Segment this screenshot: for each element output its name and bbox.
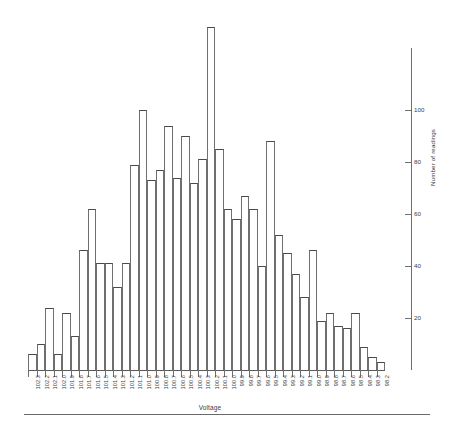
x-axis-tick-label: 98.4 — [366, 375, 374, 403]
histogram-bar — [147, 180, 156, 370]
x-axis-title: Voltage — [0, 404, 420, 411]
y-axis-tick-label: 100 — [414, 107, 424, 113]
x-axis-tick-label: 101.1 — [136, 375, 144, 403]
histogram-bar — [181, 136, 190, 370]
x-axis-tick-label: 102.2 — [43, 375, 51, 403]
x-axis-tick-label: 99.5 — [272, 375, 280, 403]
x-axis-tick-label: 101.5 — [102, 375, 110, 403]
histogram-bar — [215, 149, 224, 370]
x-axis-tick-label: 99.1 — [306, 375, 314, 403]
histogram-bar — [326, 313, 335, 370]
histogram-bar — [113, 287, 122, 370]
x-axis-tick-label: 100.1 — [221, 375, 229, 403]
x-axis-tick-label: 99.2 — [298, 375, 306, 403]
histogram-bar — [241, 196, 250, 370]
x-axis-tick-label: 98.3 — [374, 375, 382, 403]
y-axis-ticks: 20406080100 — [405, 14, 445, 374]
histogram-bar — [198, 159, 207, 370]
y-axis-tick — [405, 318, 411, 319]
x-axis-tick-label: 100.5 — [187, 375, 195, 403]
x-axis-tick-label: 100.0 — [230, 375, 238, 403]
histogram-bar — [164, 126, 173, 370]
x-axis-tick-label: 99.0 — [315, 375, 323, 403]
histogram-bar — [300, 297, 309, 370]
x-axis-tick-label: 100.4 — [196, 375, 204, 403]
histogram-bar — [54, 354, 63, 370]
y-axis-tick-label: 80 — [414, 159, 421, 165]
histogram-bar — [258, 266, 267, 370]
x-axis-tick-label: 98.6 — [349, 375, 357, 403]
histogram-bar — [37, 344, 46, 370]
histogram-bar — [232, 219, 241, 370]
histogram-bar — [207, 27, 216, 370]
x-axis-tick-label: 101.6 — [94, 375, 102, 403]
histogram-bar — [130, 165, 139, 370]
histogram-bar — [334, 326, 343, 370]
histogram-bar — [96, 263, 105, 370]
y-axis-tick-label: 60 — [414, 211, 421, 217]
y-axis-title: Number of readings — [429, 129, 436, 186]
y-axis-tick — [405, 110, 411, 111]
histogram-bar — [79, 250, 88, 370]
histogram-bar — [224, 209, 233, 370]
x-axis-tick-label: 100.7 — [170, 375, 178, 403]
histogram-bar — [266, 141, 275, 370]
footer-divider — [24, 414, 430, 415]
x-axis-tick-label: 99.8 — [247, 375, 255, 403]
x-axis-tick-label: 101.9 — [68, 375, 76, 403]
x-axis-tick-label: 99.4 — [281, 375, 289, 403]
x-axis-tick-label: 101.3 — [119, 375, 127, 403]
histogram-bar — [190, 183, 199, 370]
x-axis-tick-label: 98.7 — [340, 375, 348, 403]
histogram-bar — [156, 170, 165, 370]
histogram-bar — [343, 328, 352, 370]
x-axis-tick-label: 100.6 — [179, 375, 187, 403]
x-axis-tick-label: 102.3 — [34, 375, 42, 403]
x-axis-tick-label: 99.9 — [238, 375, 246, 403]
x-axis-tick-label: 102.0 — [60, 375, 68, 403]
x-axis-tick-label: 98.8 — [332, 375, 340, 403]
x-axis-tick-label: 99.3 — [289, 375, 297, 403]
x-axis-tick-label: 98.2 — [383, 375, 391, 403]
histogram-bar — [139, 110, 148, 370]
x-axis-tick-label: 101.7 — [85, 375, 93, 403]
histogram-bar — [292, 274, 301, 370]
x-axis-tick-label: 102.1 — [51, 375, 59, 403]
x-axis-tick-label: 101.4 — [111, 375, 119, 403]
x-axis-tick-label: 100.9 — [153, 375, 161, 403]
histogram-bar — [71, 336, 80, 370]
x-axis-tick-label: 100.3 — [204, 375, 212, 403]
y-axis-tick-label: 20 — [414, 315, 421, 321]
histogram-bar — [249, 209, 258, 370]
y-axis-tick-label: 40 — [414, 263, 421, 269]
x-axis-tick-label: 100.2 — [213, 375, 221, 403]
x-axis-tick-label: 101.0 — [145, 375, 153, 403]
histogram-bar — [105, 263, 114, 370]
plot-area — [28, 14, 385, 370]
histogram-bar — [88, 209, 97, 370]
histogram-bar — [62, 313, 71, 370]
histogram-bar — [368, 357, 377, 370]
histogram-bar — [275, 235, 284, 370]
histogram-bar — [122, 263, 131, 370]
x-axis-tick-label: 101.2 — [128, 375, 136, 403]
histogram-bar — [317, 321, 326, 370]
histogram-bar — [360, 347, 369, 370]
y-axis-tick — [405, 162, 411, 163]
histogram-bar — [173, 178, 182, 370]
x-axis-tick-label: 100.8 — [162, 375, 170, 403]
x-axis-tick-label: 99.6 — [264, 375, 272, 403]
x-axis-tick-label: 101.8 — [77, 375, 85, 403]
x-axis-tick-label: 98.9 — [323, 375, 331, 403]
y-axis-tick — [405, 266, 411, 267]
histogram-bar — [377, 362, 386, 370]
histogram-bar — [45, 308, 54, 370]
histogram-bar — [283, 253, 292, 370]
x-axis-tick-labels: 102.3102.2102.1102.0101.9101.8101.7101.6… — [28, 377, 385, 405]
x-axis-tick-label: 98.5 — [357, 375, 365, 403]
histogram-bar — [351, 313, 360, 370]
y-axis-tick — [405, 214, 411, 215]
x-axis-tick — [28, 370, 29, 377]
histogram-bar — [28, 354, 37, 370]
histogram-figure: 102.3102.2102.1102.0101.9101.8101.7101.6… — [0, 0, 454, 431]
